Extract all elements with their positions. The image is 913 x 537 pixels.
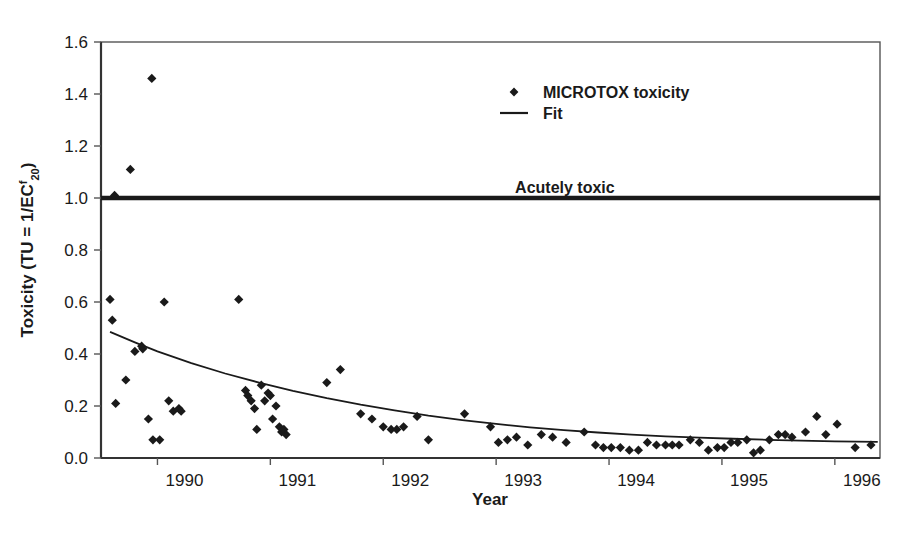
scatter-point	[523, 440, 532, 449]
y-tick-label: 1.4	[64, 85, 88, 104]
x-tick-label: 1992	[391, 471, 429, 490]
scatter-point	[322, 378, 331, 387]
scatter-point	[379, 422, 388, 431]
scatter-point	[801, 427, 810, 436]
chart-canvas: 0.00.20.40.60.81.01.21.41.6 199019911992…	[0, 0, 913, 537]
scatter-point	[160, 297, 169, 306]
scatter-point	[252, 425, 261, 434]
scatter-point	[367, 414, 376, 423]
scatter-point	[851, 443, 860, 452]
scatter-point	[643, 438, 652, 447]
scatter-point	[424, 435, 433, 444]
scatter-point	[821, 430, 830, 439]
x-tick-label: 1995	[730, 471, 768, 490]
acutely-toxic-label: Acutely toxic	[515, 179, 615, 196]
y-axis-tick-labels: 0.00.20.40.60.81.01.21.41.6	[64, 33, 88, 468]
legend-diamond-icon	[510, 88, 519, 97]
scatter-point	[720, 443, 729, 452]
scatter-point	[616, 443, 625, 452]
scatter-point	[812, 412, 821, 421]
legend-label-microtox: MICROTOX toxicity	[543, 84, 689, 101]
y-tick-label: 0.0	[64, 449, 88, 468]
scatter-point	[832, 420, 841, 429]
plot-frame	[101, 42, 880, 458]
x-tick-label: 1994	[617, 471, 655, 490]
scatter-point	[130, 347, 139, 356]
x-axis-tick-labels: 1990199119921993199419951996	[166, 471, 881, 490]
scatter-point	[625, 446, 634, 455]
scatter-point	[765, 435, 774, 444]
scatter-point	[271, 401, 280, 410]
scatter-point	[234, 295, 243, 304]
y-tick-label: 0.8	[64, 241, 88, 260]
x-tick-label: 1990	[166, 471, 204, 490]
scatter-point	[144, 414, 153, 423]
scatter-point	[674, 440, 683, 449]
scatter-points	[105, 74, 875, 458]
scatter-point	[742, 435, 751, 444]
y-axis-title: Toxicity (TU = 1/ECf20)	[17, 163, 41, 338]
scatter-point	[155, 435, 164, 444]
chart-legend: MICROTOX toxicity Fit	[500, 84, 689, 122]
chart-figure: 0.00.20.40.60.81.01.21.41.6 199019911992…	[0, 0, 913, 537]
scatter-point	[695, 438, 704, 447]
y-tick-label: 0.2	[64, 397, 88, 416]
x-tick-label: 1996	[843, 471, 881, 490]
scatter-point	[121, 375, 130, 384]
scatter-point	[562, 438, 571, 447]
x-tick-label: 1993	[504, 471, 542, 490]
scatter-point	[599, 443, 608, 452]
y-tick-label: 1.0	[64, 189, 88, 208]
scatter-point	[336, 365, 345, 374]
y-tick-label: 1.2	[64, 137, 88, 156]
scatter-point	[704, 446, 713, 455]
scatter-point	[591, 440, 600, 449]
scatter-point	[126, 165, 135, 174]
fit-curve	[110, 332, 878, 442]
x-tick-label: 1991	[278, 471, 316, 490]
y-tick-label: 0.6	[64, 293, 88, 312]
scatter-point	[250, 404, 259, 413]
scatter-point	[634, 446, 643, 455]
scatter-point	[108, 316, 117, 325]
scatter-point	[580, 427, 589, 436]
x-axis-title: Year	[472, 490, 508, 509]
scatter-point	[548, 433, 557, 442]
scatter-point	[494, 438, 503, 447]
scatter-point	[268, 414, 277, 423]
y-tick-label: 1.6	[64, 33, 88, 52]
legend-label-fit: Fit	[543, 105, 563, 122]
scatter-point	[512, 433, 521, 442]
scatter-point	[164, 396, 173, 405]
scatter-point	[111, 399, 120, 408]
scatter-point	[460, 409, 469, 418]
scatter-point	[652, 440, 661, 449]
y-tick-label: 0.4	[64, 345, 88, 364]
scatter-point	[503, 435, 512, 444]
scatter-point	[356, 409, 365, 418]
scatter-point	[607, 443, 616, 452]
scatter-point	[105, 295, 114, 304]
scatter-point	[537, 430, 546, 439]
scatter-point	[147, 74, 156, 83]
